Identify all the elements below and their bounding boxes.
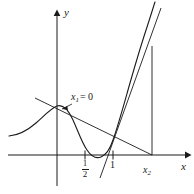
- y-axis-arrowhead: [54, 10, 61, 17]
- tick-label-one: 1: [110, 160, 115, 170]
- x-axis-label: x: [181, 161, 186, 172]
- tick-label-one-half: 1 2: [79, 159, 91, 180]
- plot-canvas: [0, 0, 194, 194]
- function-curve: [9, 2, 155, 158]
- x-axis-arrowhead: [185, 152, 192, 159]
- x1-annotation-label: x1= 0: [71, 92, 93, 104]
- x2-annotation-label: x2: [143, 165, 151, 177]
- x1-equation-value: = 0: [79, 91, 93, 102]
- fraction-numerator: 1: [79, 159, 91, 168]
- x2-subscript: 2: [147, 169, 151, 177]
- fraction-denominator: 2: [79, 170, 91, 179]
- y-axis-label: y: [64, 7, 69, 18]
- newtons-method-figure: y x x1= 0 x2 1 1 2: [0, 0, 194, 194]
- tangent-line-at-x1: [35, 98, 152, 155]
